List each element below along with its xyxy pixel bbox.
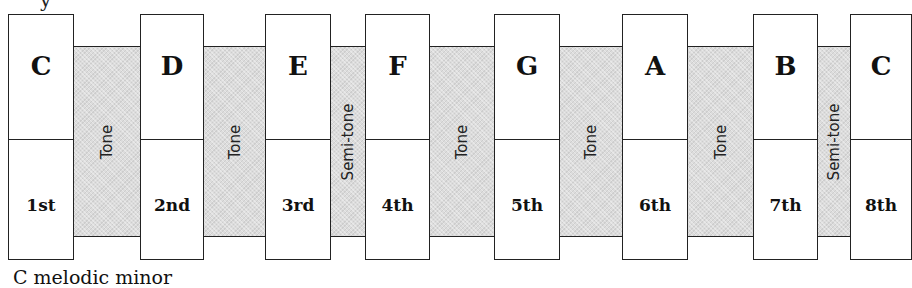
divider — [495, 139, 559, 140]
divider — [851, 139, 911, 140]
note-degree: 8th — [851, 195, 911, 215]
interval-label: Tone — [712, 124, 730, 159]
note-degree: 4th — [366, 195, 429, 215]
note-name: A — [623, 51, 687, 81]
divider — [141, 139, 203, 140]
interval-band: Tone — [204, 46, 265, 237]
interval-label: Semi-tone — [339, 103, 357, 180]
note-degree: 1st — [9, 195, 73, 215]
note-box: F4th — [365, 14, 430, 260]
note-degree: 5th — [495, 195, 559, 215]
interval-band: Semi-tone — [331, 46, 365, 237]
divider — [9, 139, 73, 140]
interval-label: Tone — [453, 124, 471, 159]
divider — [623, 139, 687, 140]
note-box: C8th — [850, 14, 912, 260]
top-clipped-text: y — [40, 0, 51, 12]
note-box: B7th — [753, 14, 818, 260]
note-degree: 3rd — [266, 195, 330, 215]
note-box: D2nd — [140, 14, 204, 260]
note-name: G — [495, 51, 559, 81]
note-box: E3rd — [265, 14, 331, 260]
note-box: C1st — [8, 14, 74, 260]
caption: C melodic minor — [13, 266, 172, 288]
note-degree: 6th — [623, 195, 687, 215]
note-box: G5th — [494, 14, 560, 260]
divider — [266, 139, 330, 140]
interval-band: Tone — [74, 46, 140, 237]
interval-band: Tone — [560, 46, 622, 237]
note-name: D — [141, 51, 203, 81]
note-degree: 7th — [754, 195, 817, 215]
interval-label: Tone — [98, 124, 116, 159]
note-name: E — [266, 51, 330, 81]
interval-band: Tone — [688, 46, 753, 237]
note-box: A6th — [622, 14, 688, 260]
note-name: F — [366, 51, 429, 81]
interval-band: Tone — [430, 46, 494, 237]
note-name: C — [851, 51, 911, 81]
divider — [366, 139, 429, 140]
note-name: C — [9, 51, 73, 81]
divider — [754, 139, 817, 140]
note-name: B — [754, 51, 817, 81]
note-degree: 2nd — [141, 195, 203, 215]
interval-label: Tone — [582, 124, 600, 159]
interval-label: Semi-tone — [825, 103, 843, 180]
interval-label: Tone — [226, 124, 244, 159]
interval-band: Semi-tone — [818, 46, 850, 237]
